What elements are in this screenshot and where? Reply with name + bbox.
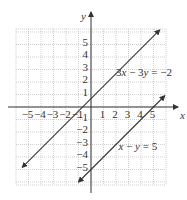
- equation-label-2: x − y = 5: [118, 140, 158, 152]
- x-tick-label: −2: [59, 108, 71, 120]
- x-tick-label: 2: [112, 108, 118, 120]
- y-tick-label: 1: [83, 86, 89, 98]
- y-tick-label: 5: [83, 36, 89, 48]
- x-tick-label: 3: [125, 108, 131, 120]
- x-tick-label: −3: [47, 108, 59, 120]
- y-tick-label: −5: [76, 161, 88, 173]
- coordinate-plane-graph: xy −5−4−3−2−11234554321−1−2−3−4−5 3x − 3…: [0, 0, 187, 200]
- x-axis-label: x: [179, 109, 185, 121]
- tick-labels: −5−4−3−2−11234554321−1−2−3−4−5: [22, 36, 156, 173]
- equation-label-1: 3x − 3y = −2: [116, 66, 172, 78]
- y-axis-label: y: [80, 10, 86, 22]
- y-tick-label: −4: [76, 148, 88, 160]
- x-tick-label: −5: [22, 108, 34, 120]
- plotted-lines: [22, 30, 165, 182]
- y-tick-label: 2: [83, 73, 89, 85]
- y-tick-label: 3: [83, 61, 89, 73]
- y-tick-label: −2: [76, 123, 88, 135]
- x-tick-label: 1: [100, 108, 106, 120]
- y-tick-label: −3: [76, 136, 88, 148]
- y-tick-label: 4: [83, 48, 89, 60]
- x-tick-label: −4: [34, 108, 46, 120]
